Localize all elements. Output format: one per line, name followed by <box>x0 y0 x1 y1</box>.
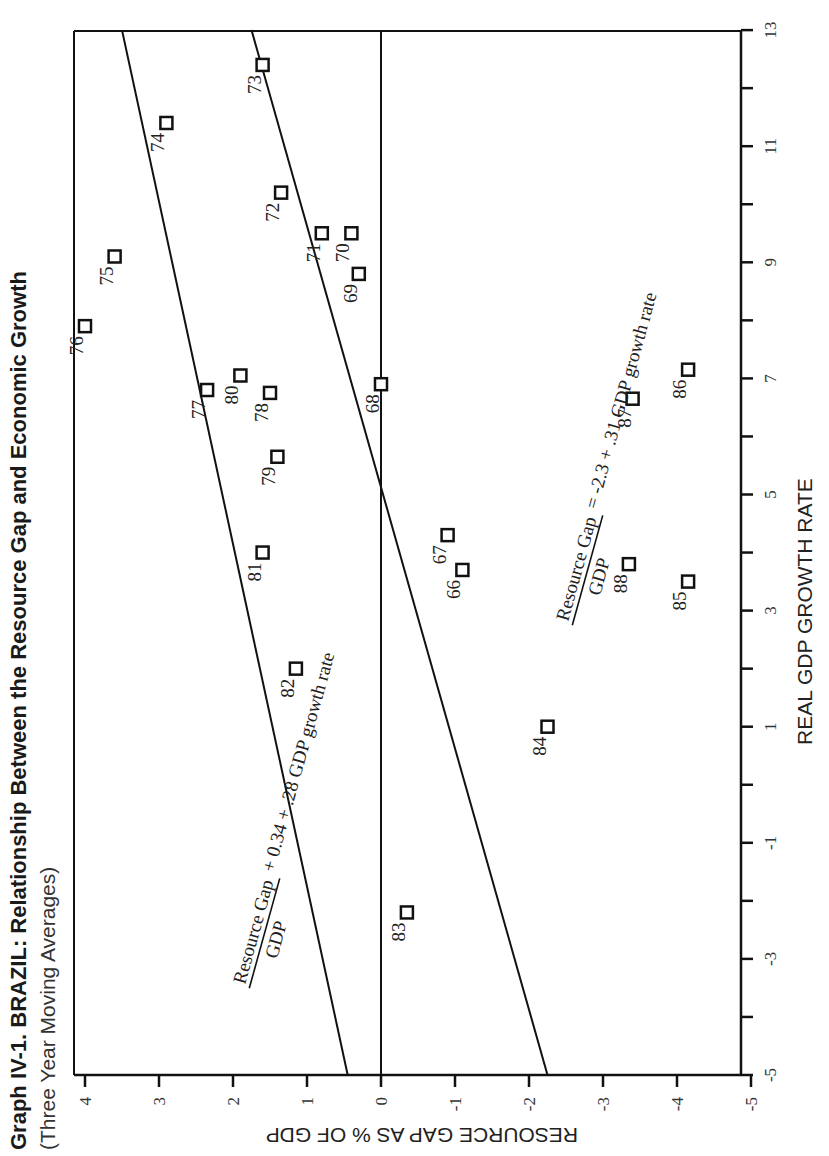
y-axis-resource-gap: 43210-1-2-3-4-5 <box>76 1075 761 1111</box>
lower-fit-line <box>252 30 548 1075</box>
scatter-chart: Graph IV-1. BRAZIL: Relationship Between… <box>0 0 829 1156</box>
y-tick-label: 4 <box>76 1097 95 1106</box>
square-marker-icon <box>201 384 213 396</box>
square-marker-icon <box>456 564 468 576</box>
y-tick-label: -2 <box>520 1097 539 1111</box>
point-label: 81 <box>244 563 265 582</box>
square-marker-icon <box>264 387 276 399</box>
point-label: 79 <box>258 467 279 486</box>
square-marker-icon <box>682 364 694 376</box>
point-label: 77 <box>188 400 209 419</box>
square-marker-icon <box>257 59 269 71</box>
data-point: 67 <box>429 529 454 564</box>
y-tick-label: 1 <box>298 1097 317 1106</box>
square-marker-icon <box>401 906 413 918</box>
equation-rhs: = -2.3 + .31 GDP growth rate <box>581 290 661 511</box>
x-tick-label: 13 <box>761 22 780 39</box>
point-label: 83 <box>388 922 409 941</box>
data-point: 75 <box>96 250 121 285</box>
y-tick-label: -3 <box>594 1097 613 1111</box>
point-label: 66 <box>443 580 464 599</box>
point-label: 68 <box>362 394 383 413</box>
y-tick-label: -5 <box>742 1097 761 1111</box>
data-point: 81 <box>244 547 269 582</box>
square-marker-icon <box>623 558 635 570</box>
square-marker-icon <box>316 227 328 239</box>
x-tick-label: 9 <box>761 258 780 267</box>
data-point: 86 <box>669 364 694 399</box>
square-marker-icon <box>257 547 269 559</box>
point-label: 69 <box>340 284 361 303</box>
point-label: 71 <box>303 243 324 262</box>
x-tick-label: 11 <box>761 138 780 154</box>
square-marker-icon <box>682 576 694 588</box>
regression-lines <box>122 30 548 1075</box>
x-axis-title: REAL GDP GROWTH RATE <box>793 478 816 745</box>
point-label: 84 <box>529 736 550 756</box>
data-point: 77 <box>188 384 213 419</box>
data-point: 80 <box>221 369 246 404</box>
y-axis-title: RESOURCE GAP AS % OF GDP <box>266 1124 578 1147</box>
x-tick-label: 5 <box>761 490 780 499</box>
data-point: 82 <box>277 663 302 698</box>
point-label: 75 <box>96 266 117 285</box>
point-label: 85 <box>669 592 690 611</box>
data-point: 79 <box>258 451 283 486</box>
point-label: 82 <box>277 679 298 698</box>
square-marker-icon <box>345 227 357 239</box>
point-label: 67 <box>429 545 450 564</box>
square-marker-icon <box>375 378 387 390</box>
point-label: 72 <box>262 203 283 222</box>
point-label: 76 <box>66 336 87 355</box>
x-tick-label: 1 <box>761 722 780 731</box>
square-marker-icon <box>353 268 365 280</box>
x-tick-label: -3 <box>761 952 780 966</box>
y-tick-label: 2 <box>224 1097 243 1106</box>
x-tick-label: -5 <box>761 1068 780 1082</box>
data-point: 74 <box>147 117 172 152</box>
square-marker-icon <box>234 369 246 381</box>
square-marker-icon <box>271 451 283 463</box>
data-point: 76 <box>66 320 91 355</box>
x-tick-label: -1 <box>761 836 780 850</box>
y-tick-label: 0 <box>372 1097 391 1106</box>
y-tick-label: 3 <box>150 1097 169 1106</box>
data-point: 83 <box>388 906 413 941</box>
line-annotations: Resource GapGDP+ 0.34 + .28 GDP growth r… <box>226 290 686 995</box>
square-marker-icon <box>290 663 302 675</box>
point-label: 86 <box>669 380 690 399</box>
x-tick-label: 3 <box>761 606 780 615</box>
square-marker-icon <box>160 117 172 129</box>
data-point: 66 <box>443 564 468 599</box>
square-marker-icon <box>275 187 287 199</box>
y-tick-label: -1 <box>446 1097 465 1111</box>
x-tick-label: 7 <box>761 374 780 383</box>
square-marker-icon <box>109 250 121 262</box>
data-point: 85 <box>669 576 694 611</box>
upper-fit-line <box>122 30 348 1075</box>
point-label: 70 <box>332 243 353 262</box>
data-point: 88 <box>610 558 635 593</box>
point-label: 88 <box>610 574 631 593</box>
data-point: 70 <box>332 227 357 262</box>
square-marker-icon <box>79 320 91 332</box>
point-label: 78 <box>251 403 272 422</box>
point-label: 73 <box>244 75 265 94</box>
square-marker-icon <box>542 721 554 733</box>
data-point: 69 <box>340 268 365 303</box>
point-label: 80 <box>221 385 242 404</box>
data-point: 78 <box>251 387 276 422</box>
data-point: 84 <box>529 721 554 756</box>
data-point: 72 <box>262 187 287 222</box>
x-axis-growth: -5-3-1135791113 <box>741 22 780 1082</box>
chart-subtitle: (Three Year Moving Averages) <box>36 867 59 1150</box>
square-marker-icon <box>442 529 454 541</box>
chart-title: Graph IV-1. BRAZIL: Relationship Between… <box>6 271 31 1150</box>
y-tick-label: -4 <box>668 1097 687 1112</box>
equation-rhs: + 0.34 + .28 GDP growth rate <box>258 650 339 874</box>
data-point: 68 <box>362 378 387 413</box>
upper-fit-line-equation: Resource GapGDP+ 0.34 + .28 GDP growth r… <box>226 650 363 995</box>
data-point: 71 <box>303 227 328 262</box>
point-label: 74 <box>147 132 168 152</box>
